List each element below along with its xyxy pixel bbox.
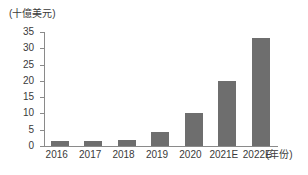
bar-slot [44,32,77,146]
bar [151,132,169,146]
bar [84,141,102,146]
y-tick-label: 15 [23,92,34,102]
x-axis-line [44,146,278,147]
y-tick-label: 20 [23,76,34,86]
bar-slot [211,32,244,146]
bar-chart: (十億美元) 05101520253035 201620172018201920… [0,0,308,175]
bar-series [44,32,278,146]
x-axis-unit-label: (年份) [266,148,293,161]
y-tick-label: 0 [28,141,34,151]
bar-slot [178,32,211,146]
y-tick-label: 5 [28,125,34,135]
bar-slot [77,32,110,146]
plot-area: 05101520253035 [44,32,278,146]
x-axis-tick-labels: 201620172018201920202021E2022E [44,148,278,162]
bar-slot [144,32,177,146]
y-tick-label: 25 [23,60,34,70]
bar-slot [245,32,278,146]
y-axis-unit-label: (十億美元) [9,8,56,20]
y-tick-label: 35 [23,27,34,37]
bar [118,140,136,147]
bar [218,81,236,146]
y-tick-label: 10 [23,108,34,118]
bar [185,113,203,146]
bar [51,141,69,146]
bar [252,38,270,146]
bar-slot [111,32,144,146]
y-tick-label: 30 [23,43,34,53]
y-tick: 0 [40,146,44,147]
